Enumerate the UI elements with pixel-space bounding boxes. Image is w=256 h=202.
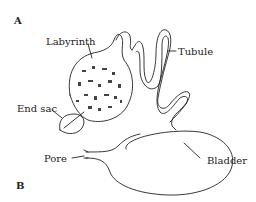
excretory-organ-diagram: A Labyrinth Tubule End sac Pore Bladder …: [0, 0, 256, 202]
panel-label-a: A: [14, 16, 22, 26]
diagram-drawing: [0, 0, 256, 202]
pore-leader: [72, 156, 84, 158]
end-sac-label: End sac: [17, 104, 57, 114]
labyrinth-label: Labyrinth: [46, 37, 96, 47]
tubule-label: Tubule: [178, 47, 213, 57]
labyrinth-texture: [76, 66, 122, 111]
bladder-leader: [184, 143, 200, 158]
panel-label-b: B: [16, 181, 24, 191]
pore-label: Pore: [44, 154, 67, 164]
bladder-label: Bladder: [207, 156, 247, 166]
end-sac-shape: [60, 114, 84, 134]
